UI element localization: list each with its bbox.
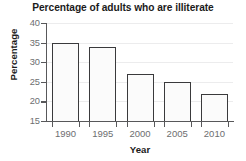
y-tick-mark <box>41 62 46 63</box>
bar <box>201 94 228 121</box>
chart-title: Percentage of adults who are illiterate <box>0 2 246 13</box>
x-tick-mark <box>191 122 192 127</box>
x-axis-line <box>46 121 234 122</box>
x-tick-mark <box>79 122 80 127</box>
x-tick-label: 2010 <box>191 128 237 139</box>
y-tick-mark <box>41 121 46 122</box>
x-tick-mark <box>89 122 90 127</box>
y-tick-label: 15 <box>0 116 40 126</box>
x-tick-mark <box>127 122 128 127</box>
y-tick-mark <box>41 43 46 44</box>
bar <box>127 74 154 121</box>
x-tick-mark <box>52 122 53 127</box>
x-tick-mark <box>201 122 202 127</box>
bar <box>89 47 116 121</box>
y-tick-mark <box>41 101 46 102</box>
x-tick-mark <box>228 122 229 127</box>
gridline <box>47 23 233 24</box>
x-tick-mark <box>164 122 165 127</box>
x-tick-mark <box>154 122 155 127</box>
y-tick-label: 35 <box>0 38 40 48</box>
plot-area <box>47 23 233 121</box>
bar <box>164 82 191 121</box>
y-tick-label: 40 <box>0 18 40 28</box>
x-axis-title: Year <box>46 144 234 155</box>
y-tick-mark <box>41 82 46 83</box>
y-tick-mark <box>41 23 46 24</box>
y-axis-line <box>46 23 47 122</box>
y-tick-label: 30 <box>0 57 40 67</box>
y-tick-label: 25 <box>0 77 40 87</box>
x-tick-mark <box>116 122 117 127</box>
bar <box>52 43 79 121</box>
y-tick-label: 20 <box>0 96 40 106</box>
bar-chart: Percentage of adults who are illiterate … <box>0 0 246 161</box>
